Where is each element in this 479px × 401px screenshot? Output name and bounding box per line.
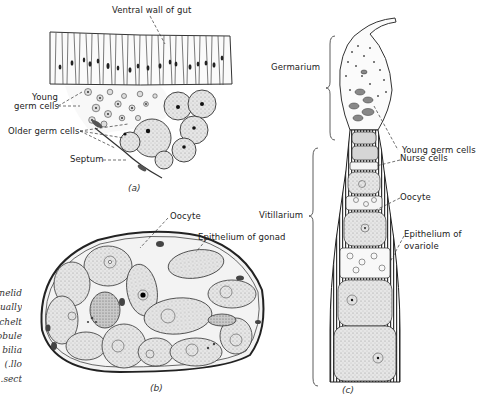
label-ventral-wall-of-gut: Ventral wall of gut (112, 6, 191, 15)
label-oocyte-c: Oocyte (400, 193, 431, 202)
label-older-germ-cells: Older germ cells (8, 127, 79, 136)
cropped-caption: nelid ually chelt obule bilia llo.) sect… (0, 286, 22, 386)
label-epithelium-of-ovariole: Epithelium of ovariole (404, 230, 462, 252)
label-germarium: Germarium (271, 63, 320, 72)
label-epithelium-line1: Epithelium of (404, 230, 462, 239)
caption-line: llo.) (0, 357, 22, 371)
caption-line: bilia (0, 343, 22, 357)
label-young-line2: germ cells (14, 102, 58, 111)
caption-line: ually (0, 300, 22, 314)
label-oocyte-b: Oocyte (170, 212, 201, 221)
panel-label-b: (b) (150, 383, 163, 393)
panel-label-c: (c) (342, 385, 354, 395)
caption-line: sect. (0, 372, 22, 386)
label-young-germ-cells-a: Young germ cells (14, 93, 58, 112)
caption-line: nelid (0, 286, 22, 300)
label-epithelium-of-gonad: Epithelium of gonad (198, 233, 286, 242)
label-epithelium-line2: ovariole (404, 242, 462, 251)
panel-c-drawing (309, 18, 404, 386)
caption-line: obule (0, 329, 22, 343)
label-septum: Septum (70, 155, 104, 164)
label-nurse-cells: Nurse cells (400, 154, 448, 163)
caption-line: chelt (0, 315, 22, 329)
label-vitillarium: Vitillarium (259, 211, 303, 220)
panel-label-a: (a) (128, 183, 141, 193)
figure-canvas: Ventral wall of gut Young germ cells Old… (0, 0, 479, 401)
